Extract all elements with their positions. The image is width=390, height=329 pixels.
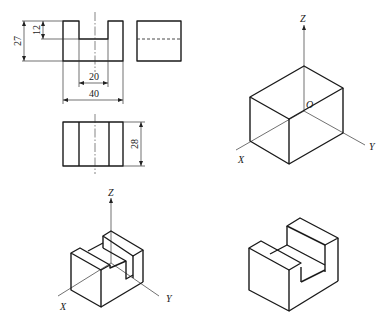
dimension-12: 12 (31, 21, 43, 39)
svg-text:Y: Y (369, 141, 376, 152)
side-view (137, 21, 181, 61)
svg-text:12: 12 (31, 25, 42, 35)
svg-text:40: 40 (89, 88, 99, 99)
svg-text:X: X (59, 301, 67, 312)
isometric-box: Z O X Y (236, 13, 376, 165)
svg-text:X: X (237, 154, 245, 165)
dimension-27: 27 (12, 21, 24, 61)
svg-text:28: 28 (129, 139, 140, 149)
dimension-40: 40 (63, 88, 123, 100)
dimension-20: 20 (79, 71, 108, 83)
svg-text:Y: Y (166, 293, 173, 304)
svg-text:20: 20 (89, 71, 99, 82)
dimension-28: 28 (129, 122, 141, 166)
svg-text:27: 27 (12, 36, 23, 46)
isometric-model-with-axes: Z X Y (58, 187, 173, 312)
svg-text:Z: Z (300, 13, 306, 24)
technical-drawing: 27 12 20 40 28 (0, 0, 390, 329)
isometric-model (249, 218, 338, 311)
svg-text:Z: Z (108, 187, 114, 198)
svg-text:O: O (306, 99, 313, 110)
